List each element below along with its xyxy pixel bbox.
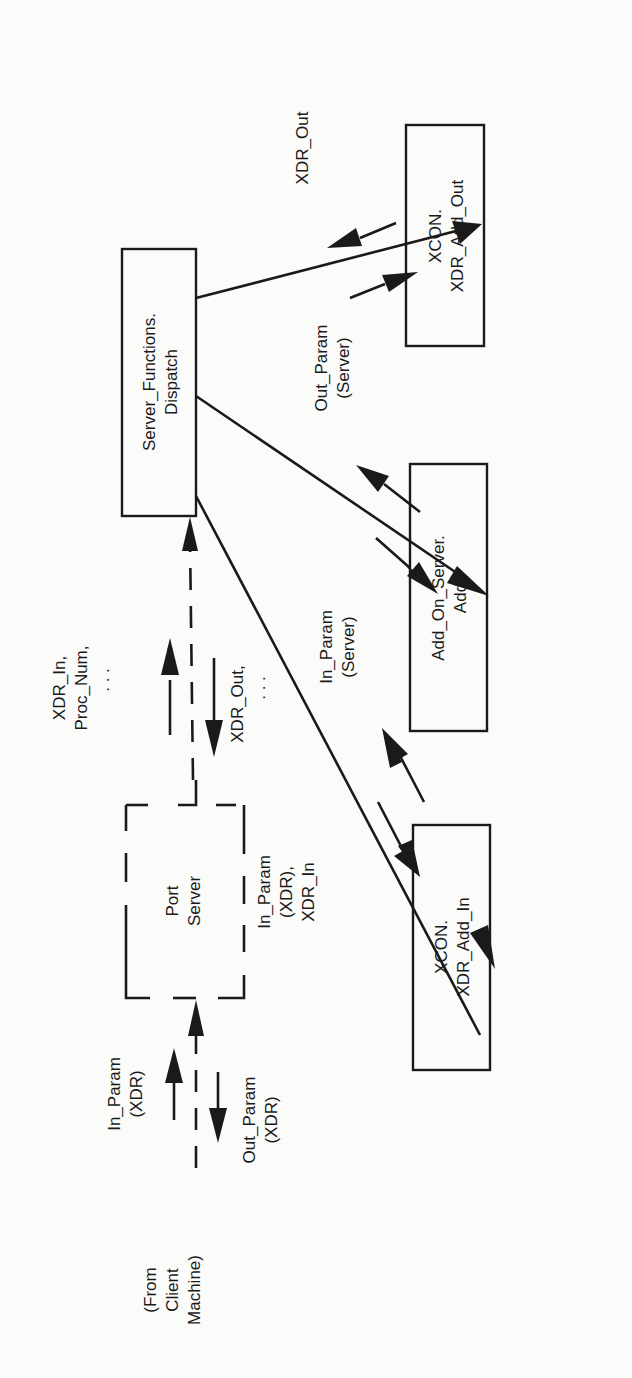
xdr-in-proc-num-label: XDR_In, Proc_Num, . . . [50, 645, 113, 730]
arrowhead-icon [188, 1000, 204, 1036]
in-param-xdr-arrow [165, 1048, 183, 1120]
out-param-xdr-arrow [209, 1072, 227, 1143]
svg-text:Add_On_Server.: Add_On_Server. [429, 535, 448, 661]
svg-text:Server: Server [185, 876, 204, 926]
arrow-up-icon [165, 1048, 183, 1083]
svg-text:Out_Param: Out_Param [312, 325, 331, 412]
arrow-up-icon [356, 465, 389, 492]
xdr-out-label: XDR_Out [293, 111, 312, 184]
xdr-add-out-label: XCON. XDR_Add_Out [426, 179, 467, 292]
out-param-xdr-label: Out_Param (XDR) [240, 1077, 281, 1164]
xdr-out-arrow [205, 658, 223, 757]
svg-text:. . .: . . . [94, 668, 113, 692]
in-param-server-label: In_Param (Server) [317, 610, 358, 684]
arrow-right-icon [382, 272, 418, 292]
from-client-label: (From Client Machine) [141, 1255, 204, 1325]
in-param-xdr-label: In_Param (XDR) [105, 1057, 146, 1131]
arrow-down-icon [209, 1108, 227, 1143]
svg-text:XDR_Out,: XDR_Out, [228, 665, 247, 742]
port-to-dispatch-connector [182, 517, 198, 780]
add-on-server-box [410, 464, 487, 731]
svg-text:Port: Port [163, 885, 182, 916]
svg-text:XDR_In: XDR_In [299, 862, 318, 922]
dispatch-box [122, 249, 196, 516]
svg-text:In_Param: In_Param [255, 855, 274, 929]
svg-text:Client: Client [163, 1268, 182, 1312]
out-param-server-label: Out_Param (Server) [312, 325, 353, 412]
svg-text:(Server): (Server) [339, 616, 358, 677]
svg-text:(XDR): (XDR) [127, 1070, 146, 1117]
svg-text:Proc_Num,: Proc_Num, [72, 645, 91, 730]
arrowhead-icon [470, 925, 495, 969]
svg-text:XCON.: XCON. [426, 209, 445, 263]
svg-text:XDR_Out: XDR_Out [293, 111, 312, 184]
xdr-in-arrow [161, 638, 179, 735]
svg-text:In_Param: In_Param [317, 610, 336, 684]
svg-text:In_Param: In_Param [105, 1057, 124, 1131]
svg-text:XDR_In,: XDR_In, [50, 656, 69, 720]
svg-text:Dispatch: Dispatch [162, 349, 181, 415]
svg-text:XCON.: XCON. [432, 920, 451, 974]
svg-text:Out_Param: Out_Param [240, 1077, 259, 1164]
svg-text:(XDR),: (XDR), [277, 866, 296, 918]
port-server-label: Port Server [163, 876, 204, 926]
svg-text:Server_Functions.: Server_Functions. [140, 313, 159, 451]
dispatch-label: Server_Functions. Dispatch [140, 313, 181, 451]
arrowhead-icon [182, 517, 198, 551]
xdr-add-out-box [406, 125, 484, 346]
svg-text:(Server): (Server) [334, 337, 353, 398]
arrow-up-icon [161, 638, 179, 675]
svg-text:XDR_Add_Out: XDR_Add_Out [448, 179, 467, 292]
arrow-left-icon [327, 228, 362, 248]
svg-text:XDR_Add_In: XDR_Add_In [454, 897, 473, 996]
in-param-xdr-xdr-in-label: In_Param (XDR), XDR_In [255, 855, 318, 929]
add-on-server-label: Add_On_Server. Add [429, 535, 470, 661]
arrow-down-icon [205, 720, 223, 757]
svg-text:. . .: . . . [250, 676, 269, 700]
svg-text:Machine): Machine) [185, 1255, 204, 1325]
out-param-server-arrow [350, 272, 418, 298]
client-to-port-connector [188, 1000, 204, 1168]
svg-text:(From: (From [141, 1267, 160, 1312]
in-param-server-up-arrow [382, 728, 424, 802]
xdr-out-return-arrow [327, 223, 396, 248]
svg-text:Add: Add [451, 583, 470, 613]
diagram-canvas: Server_Functions. Dispatch XCON. XDR_Add… [0, 0, 632, 1378]
svg-text:(XDR): (XDR) [262, 1096, 281, 1143]
xdr-out-dots-label: XDR_Out, . . . [228, 665, 269, 742]
